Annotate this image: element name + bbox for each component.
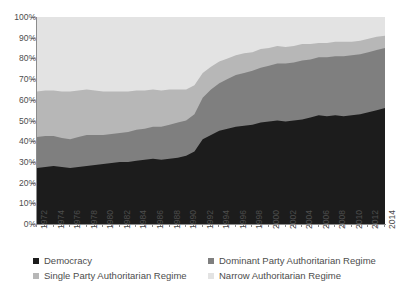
x-tick-label: 1982: [123, 210, 132, 229]
x-tick: [235, 224, 236, 227]
y-tick-label: 80%: [2, 54, 36, 63]
x-tick-label: 2012: [371, 210, 380, 229]
legend-label-single-party: Single Party Authoritarian Regime: [44, 271, 187, 281]
legend-item-single-party: Single Party Authoritarian Regime: [33, 271, 187, 281]
legend-item-democracy: Democracy: [33, 256, 92, 266]
x-tick-label: 1972: [40, 210, 49, 229]
x-tick-label: 1996: [239, 210, 248, 229]
x-tick-label: 2008: [338, 210, 347, 229]
y-tick-label: 10%: [2, 199, 36, 208]
x-tick: [102, 224, 103, 227]
x-tick: [367, 224, 368, 227]
x-tick-label: 1984: [139, 210, 148, 229]
x-tick: [384, 224, 385, 227]
x-tick: [334, 224, 335, 227]
plot-canvas: [37, 17, 385, 224]
x-tick-label: 2000: [272, 210, 281, 229]
chart-legend: Democracy Dominant Party Authoritarian R…: [0, 255, 403, 289]
legend-label-democracy: Democracy: [44, 256, 92, 266]
x-tick-label: 1988: [173, 210, 182, 229]
y-axis-line: [36, 17, 37, 225]
x-tick: [69, 224, 70, 227]
y-tick-label: 0%: [2, 220, 36, 229]
x-tick: [218, 224, 219, 227]
x-tick-label: 2010: [355, 210, 364, 229]
y-tick-label: 50%: [2, 117, 36, 126]
x-tick-label: 2014: [388, 210, 397, 229]
x-tick: [185, 224, 186, 227]
plot-area: [37, 17, 385, 224]
legend-item-narrow: Narrow Authoritarian Regime: [208, 271, 341, 281]
y-tick-label: 40%: [2, 137, 36, 146]
x-tick-label: 1986: [156, 210, 165, 229]
legend-swatch-dominant-party: [208, 258, 214, 264]
legend-swatch-democracy: [33, 258, 39, 264]
x-tick-label: 1974: [57, 210, 66, 229]
x-tick: [53, 224, 54, 227]
x-tick: [152, 224, 153, 227]
x-tick: [351, 224, 352, 227]
x-tick: [36, 224, 37, 227]
x-tick: [86, 224, 87, 227]
x-tick-label: 1978: [90, 210, 99, 229]
x-tick-label: 2002: [289, 210, 298, 229]
x-tick-label: 1976: [73, 210, 82, 229]
area-series-group: [37, 17, 385, 224]
x-tick-label: 1992: [206, 210, 215, 229]
legend-label-dominant-party: Dominant Party Authoritarian Regime: [219, 256, 376, 266]
x-tick: [251, 224, 252, 227]
x-tick: [285, 224, 286, 227]
x-tick: [169, 224, 170, 227]
x-tick: [268, 224, 269, 227]
x-tick-label: 2004: [305, 210, 314, 229]
x-tick: [202, 224, 203, 227]
x-tick-label: 1990: [189, 210, 198, 229]
y-axis: 0%10%20%30%40%50%60%70%80%90%100%: [0, 0, 36, 241]
x-tick: [318, 224, 319, 227]
legend-swatch-narrow: [208, 273, 214, 279]
legend-swatch-single-party: [33, 273, 39, 279]
x-tick: [119, 224, 120, 227]
y-tick-label: 100%: [2, 13, 36, 22]
y-tick-label: 20%: [2, 179, 36, 188]
x-tick-label: 2006: [322, 210, 331, 229]
legend-label-narrow: Narrow Authoritarian Regime: [219, 271, 341, 281]
x-tick: [135, 224, 136, 227]
y-tick-label: 90%: [2, 34, 36, 43]
x-tick-label: 1980: [106, 210, 115, 229]
stacked-area-chart: 0%10%20%30%40%50%60%70%80%90%100% 197219…: [0, 0, 403, 293]
x-tick: [301, 224, 302, 227]
x-tick-label: 1998: [255, 210, 264, 229]
x-tick-label: 1994: [222, 210, 231, 229]
y-tick-label: 30%: [2, 158, 36, 167]
y-tick-label: 70%: [2, 75, 36, 84]
legend-item-dominant-party: Dominant Party Authoritarian Regime: [208, 256, 376, 266]
y-tick-label: 60%: [2, 96, 36, 105]
